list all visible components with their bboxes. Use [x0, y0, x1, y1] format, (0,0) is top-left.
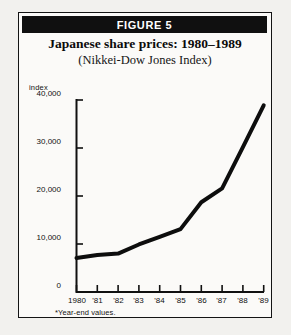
y-tick-label-40000: 40,000	[23, 89, 61, 98]
figure-frame: FIGURE 5 Japanese share prices: 1980–198…	[18, 12, 272, 318]
y-tick-label-20000: 20,000	[23, 185, 61, 194]
y-tick-label-10000: 10,000	[23, 233, 61, 242]
chart-footnote: *Year-end values.	[55, 308, 116, 317]
y-tick-label-30000: 30,000	[23, 137, 61, 146]
y-tick-label-0: 0	[23, 281, 61, 290]
x-tick-label-1989: '89	[251, 296, 276, 305]
data-series-line	[77, 105, 264, 258]
chart-plot-area: index 40,000 30,000 20,000 10,000 0	[19, 13, 273, 319]
chart-svg	[19, 13, 273, 319]
